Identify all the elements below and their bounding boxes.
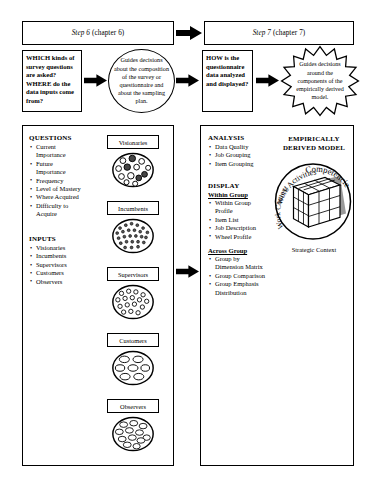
arrow-panels-icon	[176, 265, 199, 278]
list-item: Data Quality	[208, 143, 280, 151]
step-7-bar: Step 7 (chapter 7)	[204, 21, 354, 45]
list-item: Visionaries	[29, 244, 97, 252]
questions-heading: QUESTIONS	[29, 134, 97, 142]
questions-list: Current Importance Future Importance Fre…	[29, 143, 97, 219]
starburst-guides-model: Guides decisions around the components o…	[280, 45, 360, 117]
list-item: Future Importance	[29, 160, 97, 177]
arrow-2-icon	[176, 74, 199, 87]
step-7-step: Step 7	[253, 29, 271, 37]
step-7-label: Step 7 (chapter 7)	[253, 29, 306, 37]
question-box-how-analyzed: HOW is the questionnaire data analyzed a…	[202, 50, 253, 112]
list-item: Item Grouping	[208, 160, 280, 168]
group-label-incumbents: Incumbents	[107, 201, 159, 215]
group-circle-observers	[111, 416, 155, 452]
step-6-bar: Step 6 (chapter 6)	[22, 21, 174, 45]
analysis-block: ANALYSIS Data Quality Job Grouping Item …	[208, 134, 280, 168]
list-item: Group Emphasis Distribution	[208, 280, 284, 297]
group-label-supervisors: Supervisors	[107, 267, 159, 281]
list-item: Difficulty to Acquire	[29, 202, 97, 219]
model-title: EMPIRICALLY DERIVED MODEL	[277, 134, 351, 152]
inputs-list: Visionaries Incumbents Supervisors Custo…	[29, 244, 97, 286]
across-group-subheading: Across Group	[208, 247, 284, 254]
step-6-step: Step 6	[72, 29, 90, 37]
inputs-heading: INPUTS	[29, 235, 97, 243]
analysis-list: Data Quality Job Grouping Item Grouping	[208, 143, 280, 168]
group-circle-customers	[111, 350, 155, 386]
left-panel: QUESTIONS Current Importance Future Impo…	[22, 125, 174, 466]
right-panel: ANALYSIS Data Quality Job Grouping Item …	[200, 125, 354, 466]
list-item: Customers	[29, 269, 97, 277]
list-item: Job Grouping	[208, 151, 280, 159]
starburst-text: Guides decisions around the components o…	[280, 45, 360, 117]
arrow-header-icon	[176, 26, 202, 40]
question-box-which-where: WHICH kinds of survey questions are aske…	[22, 50, 82, 112]
list-item: Group Comparison	[208, 272, 284, 280]
analysis-heading: ANALYSIS	[208, 134, 280, 142]
inputs-block: INPUTS Visionaries Incumbents Supervisor…	[29, 235, 97, 286]
group-circle-incumbents	[111, 218, 155, 254]
ellipse-guides-survey: Guides decisions about the composition o…	[108, 49, 175, 113]
arrow-3-icon	[256, 74, 279, 87]
list-item: Frequency	[29, 177, 97, 185]
group-circle-supervisors	[111, 284, 155, 320]
step-6-label: Step 6 (chapter 6)	[72, 29, 125, 37]
list-item: Incumbents	[29, 252, 97, 260]
list-item: Where Acquired	[29, 193, 97, 201]
arrow-1-icon	[84, 74, 107, 87]
group-label-observers: Observers	[107, 399, 159, 413]
group-label-customers: Customers	[107, 333, 159, 347]
list-item: Observers	[29, 278, 97, 286]
across-group-list: Group by Dimension Matrix Group Comparis…	[208, 255, 284, 297]
list-item: Current Importance	[29, 143, 97, 160]
model-cube-diagram: Competencies Work Activities Work Contex…	[271, 155, 355, 245]
model-footer-strategic-context: Strategic Context	[277, 246, 351, 253]
group-label-visionaries: Visionaries	[107, 135, 159, 149]
step-7-chapter: (chapter 7)	[271, 29, 305, 37]
questions-block: QUESTIONS Current Importance Future Impo…	[29, 134, 97, 219]
model-title-line-2: DERIVED MODEL	[277, 143, 351, 152]
step-6-chapter: (chapter 6)	[90, 29, 124, 37]
model-title-line-1: EMPIRICALLY	[277, 134, 351, 143]
diagram-canvas: Step 6 (chapter 6) Step 7 (chapter 7) WH…	[0, 0, 375, 494]
list-item: Group by Dimension Matrix	[208, 255, 284, 272]
group-circle-visionaries	[111, 152, 155, 188]
list-item: Supervisors	[29, 261, 97, 269]
list-item: Level of Mastery	[29, 185, 97, 193]
